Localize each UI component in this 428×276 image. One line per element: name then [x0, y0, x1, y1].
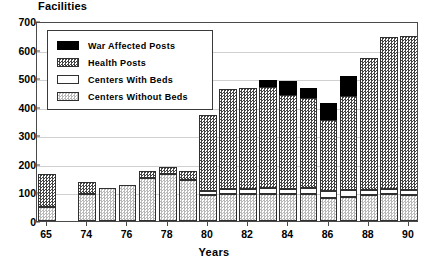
- bar-segment-health-posts: [239, 88, 257, 189]
- bar-segment-centers-with-beds: [219, 189, 237, 194]
- bar-segment-centers-without-beds: [139, 178, 157, 221]
- bar-segment-health-posts: [259, 87, 277, 189]
- bar-segment-health-posts: [380, 37, 398, 189]
- x-axis-title: Years: [0, 246, 428, 258]
- y-axis-tick-label: 400: [2, 102, 36, 114]
- y-axis-tick-mark: [36, 107, 40, 108]
- bar-segment-centers-without-beds: [119, 185, 137, 221]
- legend-item-health-posts: Health Posts: [57, 54, 212, 71]
- bar-segment-health-posts: [279, 95, 297, 189]
- bar-85: [300, 88, 318, 221]
- x-axis: Years 65747678808284868890: [0, 222, 428, 276]
- bar-83: [259, 80, 277, 221]
- x-axis-tick-label: 90: [402, 228, 414, 240]
- legend-label: Centers With Beds: [88, 75, 173, 85]
- bar-87: [340, 76, 358, 221]
- bar-segment-health-posts: [139, 171, 157, 177]
- bar-segment-centers-without-beds: [279, 194, 297, 221]
- x-axis-tick-mark: [368, 222, 369, 226]
- bar-segment-health-posts: [400, 36, 418, 190]
- bar-segment-health-posts: [179, 171, 197, 180]
- x-axis-tick-mark: [408, 222, 409, 226]
- bar-segment-centers-without-beds: [400, 195, 418, 221]
- bar-segment-centers-with-beds: [400, 190, 418, 195]
- legend-swatch-icon-centers-without-beds: [57, 92, 79, 101]
- x-axis-tick-label: 88: [362, 228, 374, 240]
- bar-segment-centers-with-beds: [360, 190, 378, 195]
- chart-title: Facilities: [38, 0, 87, 12]
- bar-segment-centers-without-beds: [300, 194, 318, 221]
- bar-segment-war-affected-posts: [340, 76, 358, 97]
- x-axis-tick-label: 82: [241, 228, 253, 240]
- y-axis-tick-mark: [36, 136, 40, 137]
- bar-86: [320, 103, 338, 221]
- x-axis-tick-mark: [46, 222, 47, 226]
- x-axis-tick-label: 80: [201, 228, 213, 240]
- bar-segment-centers-with-beds: [320, 191, 338, 198]
- chart-legend: War Affected Posts Health Posts Centers …: [47, 30, 213, 110]
- bar-segment-centers-without-beds: [199, 195, 217, 221]
- facilities-bar-chart: Facilities 0100200300400500600700 Years …: [0, 0, 428, 276]
- legend-item-centers-without-beds: Centers Without Beds: [57, 88, 212, 105]
- x-axis-tick-label: 65: [40, 228, 52, 240]
- y-axis-tick-mark: [36, 50, 40, 51]
- bar-segment-centers-with-beds: [239, 189, 257, 194]
- y-axis-tick-label: 300: [2, 130, 36, 142]
- y-axis-tick-mark: [36, 79, 40, 80]
- bar-77: [139, 171, 157, 221]
- bar-segment-war-affected-posts: [279, 81, 297, 95]
- bar-90: [400, 36, 418, 221]
- legend-label: Health Posts: [88, 58, 146, 68]
- bar-78: [159, 167, 177, 221]
- bar-89: [380, 37, 398, 221]
- x-axis-tick-label: 84: [281, 228, 293, 240]
- legend-swatch-icon-war-affected-posts: [57, 41, 79, 50]
- bar-74: [78, 182, 96, 221]
- bar-segment-centers-without-beds: [78, 194, 96, 221]
- bar-segment-centers-without-beds: [38, 207, 56, 221]
- x-axis-tick-mark: [126, 222, 127, 226]
- x-axis-tick-mark: [167, 222, 168, 226]
- bar-segment-centers-without-beds: [320, 198, 338, 221]
- bar-82: [239, 88, 257, 221]
- bar-segment-centers-without-beds: [159, 174, 177, 221]
- y-axis-tick-label: 600: [2, 45, 36, 57]
- bar-segment-health-posts: [159, 167, 177, 173]
- legend-label: Centers Without Beds: [88, 92, 188, 102]
- bar-segment-centers-without-beds: [179, 180, 197, 221]
- bar-segment-health-posts: [300, 98, 318, 188]
- x-axis-tick-mark: [287, 222, 288, 226]
- x-axis-tick-mark: [207, 222, 208, 226]
- bar-segment-centers-with-beds: [199, 191, 217, 195]
- y-axis-tick-label: 200: [2, 159, 36, 171]
- bar-segment-health-posts: [199, 115, 217, 191]
- bar-65: [38, 174, 56, 221]
- bar-segment-war-affected-posts: [320, 103, 338, 120]
- bar-segment-centers-without-beds: [340, 197, 358, 221]
- bar-segment-health-posts: [340, 96, 358, 190]
- bar-segment-war-affected-posts: [300, 88, 318, 99]
- y-axis-tick-label: 700: [2, 16, 36, 28]
- bar-80: [199, 115, 217, 221]
- bar-segment-war-affected-posts: [259, 80, 277, 87]
- bar-segment-centers-without-beds: [99, 188, 117, 221]
- y-axis-tick-mark: [36, 22, 40, 23]
- bar-segment-centers-without-beds: [259, 194, 277, 221]
- x-axis-tick-mark: [247, 222, 248, 226]
- bar-segment-centers-without-beds: [380, 194, 398, 221]
- bar-segment-centers-without-beds: [360, 195, 378, 221]
- legend-item-war-affected-posts: War Affected Posts: [57, 37, 212, 54]
- bar-segment-centers-with-beds: [300, 188, 318, 193]
- bar-segment-centers-with-beds: [340, 190, 358, 196]
- bar-84: [279, 81, 297, 221]
- bar-segment-health-posts: [320, 120, 338, 191]
- x-axis-tick-mark: [328, 222, 329, 226]
- y-axis-tick-mark: [36, 193, 40, 194]
- legend-swatch-icon-health-posts: [57, 58, 79, 67]
- y-axis-tick-label: 500: [2, 73, 36, 85]
- x-axis-tick-label: 76: [121, 228, 133, 240]
- bar-segment-centers-without-beds: [239, 194, 257, 221]
- legend-swatch-icon-centers-with-beds: [57, 75, 79, 84]
- legend-item-centers-with-beds: Centers With Beds: [57, 71, 212, 88]
- bar-segment-centers-with-beds: [380, 189, 398, 194]
